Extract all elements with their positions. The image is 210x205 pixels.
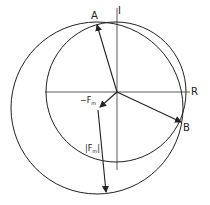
vector-oa [97,25,117,92]
axis-r-label: R [191,86,198,97]
point-b-label: B [183,122,190,133]
abs-fm-label: |Fm| [85,144,100,154]
phasor-diagram: A I R B −Fm |Fm| [0,0,210,205]
axis-i-label: I [118,5,121,16]
vector-ob [117,92,181,122]
outer-circle [11,22,183,194]
vector-neg-fm [100,92,117,107]
point-a-label: A [91,10,98,21]
neg-fm-label: −Fm [80,96,96,106]
